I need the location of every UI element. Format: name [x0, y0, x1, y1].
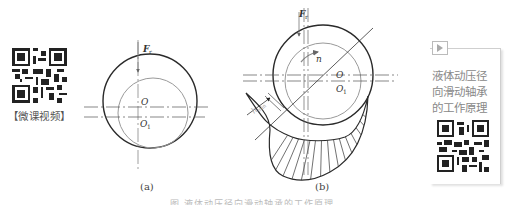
video-card-title: 液体动压径 向滑动轴承 的工作原理	[432, 68, 500, 116]
play-icon	[437, 44, 443, 52]
svg-text:1: 1	[343, 88, 347, 95]
play-button[interactable]	[432, 41, 448, 55]
figure-caption: 图 液体动压径向滑动轴承的工作原理	[170, 197, 334, 205]
figure-a-label: (a)	[140, 181, 154, 192]
rotation-label: n	[316, 54, 322, 64]
center-o-label-a: O	[141, 97, 149, 107]
figure-b	[243, 8, 400, 200]
svg-text:r: r	[305, 13, 308, 20]
qr-code-icon[interactable]	[437, 120, 489, 172]
figure-b-label: (b)	[315, 181, 329, 192]
center-o-label-b: O	[336, 70, 344, 80]
svg-text:1: 1	[147, 123, 151, 130]
svg-text:r: r	[149, 48, 152, 55]
